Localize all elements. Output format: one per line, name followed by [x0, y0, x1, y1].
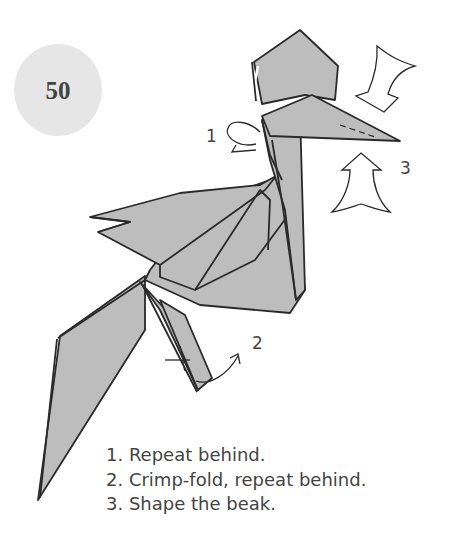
- push-arrow-up: [332, 153, 390, 212]
- instruction-item: 1. Repeat behind.: [106, 443, 366, 468]
- callout-label-2: 2: [252, 335, 263, 352]
- instruction-item: 2. Crimp-fold, repeat behind.: [106, 468, 366, 493]
- callout-label-1: 1: [206, 128, 217, 145]
- repeat-behind-arrow: [227, 122, 260, 152]
- callout-label-3: 3: [400, 160, 411, 177]
- leg-back: [160, 300, 212, 390]
- push-arrow-down: [356, 46, 415, 112]
- head: [254, 30, 338, 104]
- instruction-item: 3. Shape the beak.: [106, 492, 366, 517]
- instruction-list: 1. Repeat behind. 2. Crimp-fold, repeat …: [106, 443, 366, 517]
